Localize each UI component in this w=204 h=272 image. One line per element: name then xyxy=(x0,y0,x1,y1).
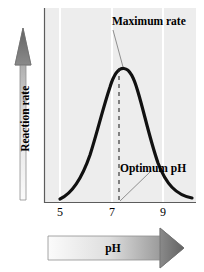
maximum-rate-label: Maximum rate xyxy=(112,16,186,28)
x-tick-label-9: 9 xyxy=(160,206,166,218)
ph-reaction-rate-figure: Maximum rate Optimum pH pH Reaction rate… xyxy=(0,0,204,272)
y-axis-label: Reaction rate xyxy=(20,74,32,164)
x-tick-label-7: 7 xyxy=(109,206,115,218)
x-tick-label-5: 5 xyxy=(57,206,63,218)
optimum-ph-label: Optimum pH xyxy=(120,163,186,175)
x-axis-label: pH xyxy=(105,243,120,255)
